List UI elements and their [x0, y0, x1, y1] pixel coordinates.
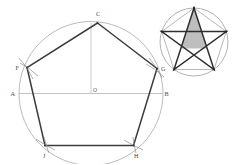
inscribed-pentagon	[27, 23, 157, 146]
vertex-markers	[26, 22, 158, 146]
compass-arc-marks	[19, 58, 164, 153]
vertex-dot-F	[26, 67, 28, 69]
main-construction: C G H J F A B O	[11, 10, 169, 165]
vertex-label-J: J	[43, 152, 46, 159]
vertex-dot-C	[97, 22, 99, 24]
vertex-dot-H	[133, 145, 135, 147]
inset-vertex-dot-lower-right	[213, 68, 215, 70]
vertex-label-F: F	[16, 64, 20, 71]
center-label-O: O	[93, 87, 97, 93]
vertex-label-H: H	[134, 152, 139, 159]
inset-vertex-dot-lower-left	[173, 68, 175, 70]
vertex-dot-J	[44, 145, 46, 147]
inset-vertex-dot-top	[193, 7, 195, 9]
inset-shaded-triangle	[181, 8, 207, 49]
vertex-dot-G	[156, 68, 158, 70]
pentagram-inset	[160, 7, 228, 76]
vertex-label-C: C	[96, 10, 100, 17]
geometry-figure: C G H J F A B O	[0, 0, 233, 164]
point-label-B: B	[165, 90, 169, 97]
diagram-canvas: C G H J F A B O	[0, 0, 233, 164]
inset-vertex-dot-right	[225, 30, 227, 32]
point-label-A: A	[11, 90, 16, 97]
inset-vertex-dot-left	[161, 30, 163, 32]
vertex-label-G: G	[161, 65, 166, 72]
